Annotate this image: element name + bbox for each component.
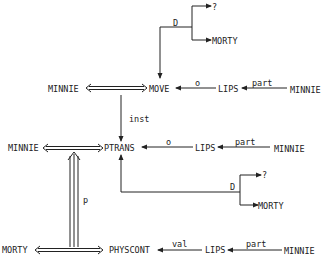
ptrans-direction-label: D	[230, 182, 235, 192]
instrument-label: inst	[129, 114, 149, 124]
ptrans-to-node: MORTY	[258, 201, 284, 211]
physcont-actor-double-arrow	[35, 246, 103, 254]
ptrans-part-label: part	[235, 137, 255, 147]
physcont-value-label: val	[172, 239, 187, 249]
move-part-label: part	[252, 78, 272, 88]
move-actor-node: MINNIE	[48, 84, 79, 94]
move-to-node: MORTY	[212, 36, 238, 46]
move-actor-double-arrow	[86, 84, 147, 92]
physcont-value-node: LIPS	[205, 245, 225, 255]
move-from-node: ?	[212, 2, 217, 12]
physcont-value-owner-node: MINNIE	[284, 246, 315, 256]
move-node: MOVE	[149, 84, 169, 94]
physcont-row: MORTY PHYSCONT val LIPS part MINNIE	[2, 239, 315, 256]
move-object-node: LIPS	[218, 84, 238, 94]
ptrans-object-node: LIPS	[195, 143, 215, 153]
ptrans-actor-node: MINNIE	[8, 143, 39, 153]
ptrans-row: MINNIE PTRANS o LIPS part MINNIE	[8, 137, 305, 154]
move-object-owner-node: MINNIE	[290, 85, 321, 95]
ptrans-direction-case: D ? MORTY	[121, 155, 284, 211]
physcont-actor-node: MORTY	[2, 245, 28, 255]
ptrans-object-owner-node: MINNIE	[274, 144, 305, 154]
physcont-node: PHYSCONT	[109, 245, 150, 255]
ptrans-actor-double-arrow	[43, 144, 103, 152]
move-direction-case: D ? MORTY	[160, 2, 238, 78]
ptrans-from-node: ?	[262, 170, 267, 180]
move-direction-label: D	[173, 18, 178, 28]
result-causal-link	[68, 152, 80, 247]
conceptual-dependency-diagram: D ? MORTY MINNIE MOVE o LIPS part MINNIE…	[0, 0, 326, 267]
move-row: MINNIE MOVE o LIPS part MINNIE	[48, 78, 321, 95]
ptrans-node: PTRANS	[104, 143, 135, 153]
result-label: p	[83, 195, 88, 205]
physcont-part-label: part	[246, 239, 266, 249]
ptrans-object-label: o	[166, 137, 171, 147]
move-object-label: o	[195, 78, 200, 88]
